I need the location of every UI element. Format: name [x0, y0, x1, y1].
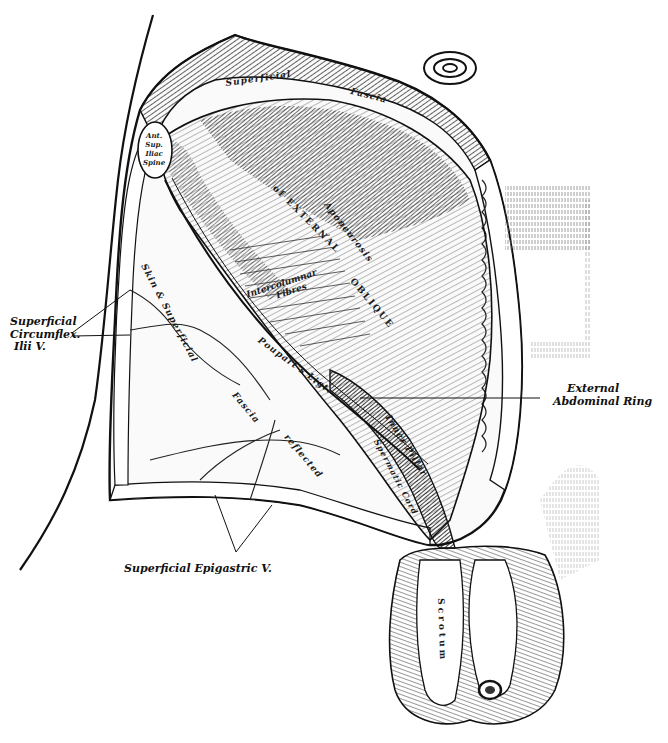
- epigastric-pointer-lines: [215, 495, 272, 552]
- label-scrotum: Scrotum: [436, 598, 449, 662]
- umbilicus: [424, 52, 476, 84]
- label-line: Ant.: [143, 131, 165, 140]
- label-ant-sup-iliac-spine: Ant. Sup. Iliac Spine: [143, 131, 165, 167]
- label-line: Abdominal Ring: [553, 396, 652, 409]
- label-line: Sup.: [143, 140, 165, 149]
- label-external-abdominal-ring: External Abdominal Ring: [565, 383, 652, 408]
- label-superficial-circumflex-ilii-v: Superficial Circumflex. Ilii V.: [10, 316, 80, 354]
- label-superficial-epigastric-v: Superficial Epigastric V.: [124, 563, 272, 576]
- shading-right-upper: [505, 185, 590, 250]
- anatomical-figure: Superficial Circumflex. Ilii V. External…: [0, 0, 668, 743]
- label-line: Iliac: [143, 149, 165, 158]
- engraving-illustration: [0, 0, 668, 743]
- label-line: Superficial: [10, 316, 80, 329]
- label-line: Ilii V.: [10, 341, 80, 354]
- label-line: External: [565, 383, 652, 396]
- label-line: Spine: [143, 158, 165, 167]
- scrotum-right-sac: [469, 560, 517, 696]
